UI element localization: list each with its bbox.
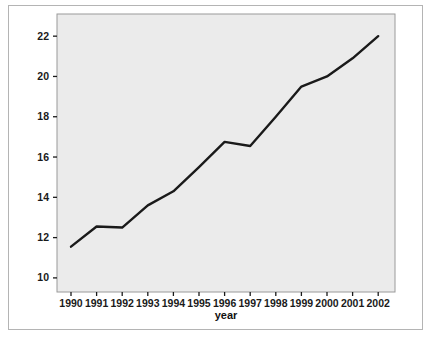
x-axis-tick-label: 1991 xyxy=(85,297,109,309)
y-axis-tick-label: 22 xyxy=(37,30,49,42)
plot-area xyxy=(57,14,395,292)
x-axis-tick-label: 1999 xyxy=(290,297,314,309)
y-axis-tick-label: 14 xyxy=(37,191,49,203)
x-axis-tick-labels: 1990199119921993199419951996199719981999… xyxy=(59,297,390,309)
figure-container: 10121416182022 1990199119921993199419951… xyxy=(0,0,432,337)
x-axis-tick-label: 2002 xyxy=(367,297,391,309)
x-axis-tick-label: 1997 xyxy=(239,297,263,309)
y-axis-tick-labels: 10121416182022 xyxy=(37,30,49,284)
x-axis-tick-label: 1995 xyxy=(187,297,211,309)
y-axis-tick-label: 10 xyxy=(37,271,49,283)
x-axis-tick-marks xyxy=(71,292,378,296)
x-axis-tick-label: 2000 xyxy=(315,297,339,309)
y-axis-tick-label: 20 xyxy=(37,70,49,82)
x-axis-tick-label: 2001 xyxy=(341,297,365,309)
y-axis-tick-label: 16 xyxy=(37,151,49,163)
x-axis-tick-label: 1990 xyxy=(59,297,83,309)
x-axis-tick-label: 1996 xyxy=(213,297,237,309)
x-axis-tick-label: 1998 xyxy=(264,297,288,309)
y-axis-tick-label: 12 xyxy=(37,231,49,243)
x-axis-tick-label: 1994 xyxy=(162,297,186,309)
y-axis-tick-label: 18 xyxy=(37,110,49,122)
line-chart: 10121416182022 1990199119921993199419951… xyxy=(0,0,432,337)
x-axis-tick-label: 1992 xyxy=(111,297,135,309)
y-axis-tick-marks xyxy=(53,36,57,278)
x-axis-tick-label: 1993 xyxy=(136,297,160,309)
x-axis-title: year xyxy=(215,309,238,321)
